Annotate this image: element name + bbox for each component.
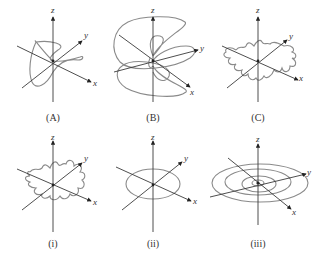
- y-label: y: [83, 153, 88, 163]
- panel-i: z y x (i): [17, 132, 97, 250]
- x-axis: [119, 35, 190, 87]
- panel-iii: z y x (iii): [210, 134, 311, 250]
- x-label: x: [298, 73, 303, 83]
- z-label: z: [255, 134, 260, 144]
- caption-a: (A): [46, 112, 60, 124]
- caption-c: (C): [251, 112, 264, 124]
- y-axis: [22, 41, 82, 88]
- origin-dot: [152, 60, 155, 63]
- x-label: x: [189, 87, 194, 97]
- x-axis: [222, 46, 298, 80]
- caption-iii: (iii): [251, 238, 266, 250]
- panel-a: z y x (A): [17, 5, 97, 124]
- z-label: z: [50, 132, 55, 142]
- x-axis: [17, 46, 91, 82]
- panel-b: z y x (B): [114, 5, 204, 124]
- curve-a: [30, 41, 83, 86]
- origin-dot: [52, 184, 55, 187]
- x-label: x: [192, 196, 197, 206]
- x-label: x: [291, 207, 296, 217]
- caption-b: (B): [146, 112, 159, 124]
- origin-dot: [152, 184, 155, 187]
- curve-iii-outer: [212, 164, 308, 202]
- origin-dot: [256, 181, 259, 184]
- panel-ii: z y x (ii): [116, 132, 197, 250]
- figure-canvas: z y x (A) z y x (B) z y x (C) z y x: [0, 0, 324, 260]
- z-label: z: [255, 5, 260, 15]
- y-label: y: [183, 153, 188, 163]
- y-label: y: [306, 167, 311, 177]
- z-label: z: [50, 5, 55, 15]
- z-label: z: [150, 132, 155, 142]
- origin-dot: [52, 60, 55, 63]
- x-label: x: [92, 197, 97, 207]
- curve-i: [26, 160, 85, 199]
- origin-dot: [257, 60, 260, 63]
- caption-i: (i): [48, 238, 57, 250]
- y-label: y: [83, 30, 88, 40]
- panel-c: z y x (C): [222, 5, 303, 124]
- caption-ii: (ii): [147, 238, 159, 250]
- z-label: z: [150, 5, 155, 15]
- curve-b: [114, 17, 195, 97]
- x-label: x: [92, 78, 97, 88]
- y-label: y: [288, 31, 293, 41]
- y-label: y: [199, 43, 204, 53]
